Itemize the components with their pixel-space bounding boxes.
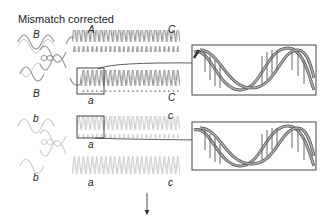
label-C-top-upper: C xyxy=(168,24,175,35)
bottom-lower-strand xyxy=(72,156,180,178)
top-dna-detail xyxy=(192,45,316,95)
top-centromere-left xyxy=(41,56,47,61)
label-c-bottom-upper: c xyxy=(168,110,173,121)
bottom-zoom-arrow xyxy=(95,138,200,140)
bottom-crossover-arms xyxy=(18,119,66,173)
bottom-upper-strand xyxy=(77,116,180,138)
label-C-top-lower: C xyxy=(168,92,175,103)
label-a-bottom-upper: a xyxy=(88,139,94,150)
bottom-centromere-right xyxy=(47,140,53,145)
bottom-chromosome-pair xyxy=(18,116,200,178)
label-b-bottom-lower: b xyxy=(33,172,39,183)
top-zoom-arrow xyxy=(98,63,200,69)
label-a-top: a xyxy=(88,95,94,106)
label-A-top: A xyxy=(88,24,95,35)
label-a-bottom-lower: a xyxy=(88,177,94,188)
bottom-dna-detail xyxy=(192,122,316,170)
top-chromosome-pair xyxy=(18,30,200,94)
label-c-bottom-lower: c xyxy=(168,177,173,188)
bottom-centromere-left xyxy=(41,140,47,145)
mismatch-diagram xyxy=(0,0,322,224)
label-b-bottom-upper: b xyxy=(33,113,39,124)
top-centromere-right xyxy=(47,56,53,61)
top-lower-strand xyxy=(80,70,180,92)
label-B-top-upper: B xyxy=(33,29,40,40)
label-B-top-lower: B xyxy=(33,88,40,99)
